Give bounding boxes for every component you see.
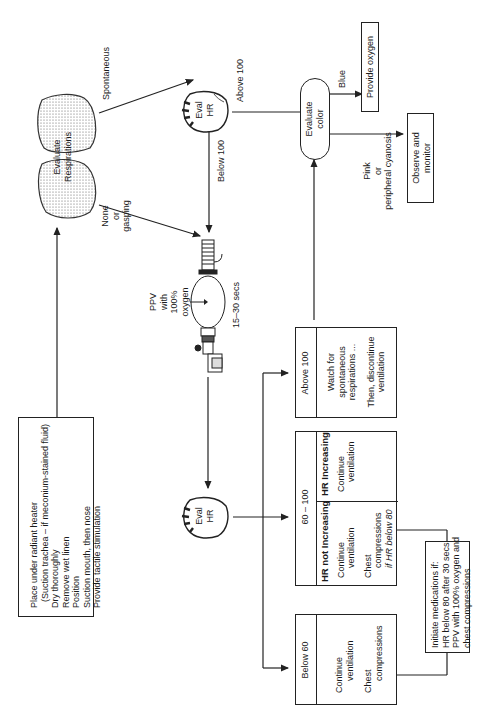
outcome-above-100-box: Above 100 Watch for spontaneous respirat… <box>295 327 397 418</box>
percent-text: 100% <box>169 282 180 322</box>
arrow-spontaneous <box>99 80 193 113</box>
lungs-icon: Evaluate Respirations <box>34 92 100 222</box>
above-100-top-label: Above 100 <box>235 59 246 102</box>
initial-step-4: Remove wet linen <box>61 424 72 608</box>
outcome-above-100-header: Above 100 <box>300 338 311 408</box>
peripheral-cyanosis-text: peripheral cyanosis <box>383 126 394 216</box>
pink-text: Pink <box>362 126 373 216</box>
hr-not-increasing-line-6: if HR below 80 <box>384 501 395 582</box>
above-100-line-5: Then, discontinue <box>366 336 377 408</box>
blue-label: Blue <box>337 70 348 88</box>
evaluate-respirations-label-2: Respirations <box>63 122 74 192</box>
medications-line-2: HR below 80 after 30 secs <box>441 537 452 648</box>
eval-hr-top-text-1: Eval <box>194 92 205 128</box>
gasping-text: gasping <box>121 196 132 236</box>
pink-label: Pink or peripheral cyanosis <box>362 126 394 216</box>
outcome-60-100-box: 60 – 100 HR Increasing Continue ventilat… <box>295 431 397 586</box>
outcome-below-60-header: Below 60 <box>300 625 311 695</box>
medications-line-1: Initiate medications if: <box>430 537 441 648</box>
with-text: with <box>159 282 170 322</box>
or-text-2: or <box>373 126 384 216</box>
outcome-60-100-header: 60 – 100 <box>300 472 311 542</box>
initial-step-3: Dry thoroughly <box>50 424 61 608</box>
initial-step-1: Place under radiant heater <box>29 424 40 608</box>
hr-not-increasing-title: HR not Increasing <box>320 501 331 582</box>
medications-box: Initiate medications if: HR below 80 aft… <box>425 541 470 653</box>
provide-oxygen-box: Provide oxygen <box>361 22 379 112</box>
initial-steps-box: Place under radiant heater (Suction trac… <box>18 417 94 617</box>
above-100-line-3: respirations ... <box>347 336 358 408</box>
hr-not-increasing-line-1: Continue <box>336 501 347 582</box>
provide-oxygen-text: Provide oxygen <box>365 29 376 105</box>
heart-icon-top: Eval HR <box>180 88 230 133</box>
eval-hr-bottom-text-1: Eval <box>194 498 205 534</box>
above-100-line-2: spontaneous <box>337 336 348 408</box>
initial-step-7: Provide tactile stimulation <box>92 424 103 608</box>
above-100-line-6: ventilation <box>376 336 387 408</box>
below-60-line-2: ventilation <box>345 625 356 693</box>
below-100-top-label: Below 100 <box>216 140 227 182</box>
spontaneous-label: Spontaneous <box>101 47 112 100</box>
initial-step-6: Suction mouth, then nose <box>82 424 93 608</box>
hr-not-increasing-line-4: Chest <box>363 501 374 582</box>
ppv-duration-label: 15–30 secs <box>231 282 242 328</box>
below-60-line-5: compressions <box>374 625 385 693</box>
medications-line-4: chest compressions <box>462 537 473 648</box>
initial-step-5: Position <box>71 424 82 608</box>
monitor-text: monitor <box>422 120 433 196</box>
none-text: None <box>100 196 111 236</box>
heart-icon-bottom: Eval HR <box>180 494 230 539</box>
or-text: or <box>111 196 122 236</box>
hr-increasing-line-1: Continue <box>336 432 347 496</box>
oxygen-text: oxygen <box>180 282 191 322</box>
observe-monitor-box: Observe and monitor <box>407 113 434 203</box>
eval-hr-bottom-text-2: HR <box>205 498 216 534</box>
evaluate-respirations-label-1: Evaluate <box>52 122 63 192</box>
ppv-text: PPV <box>148 282 159 322</box>
evaluate-color-text-1: Evaluate <box>304 97 315 141</box>
hr-increasing-title: HR Increasing <box>320 432 331 496</box>
above-100-line-1: Watch for <box>326 336 337 408</box>
below-60-line-4: Chest <box>363 625 374 693</box>
hr-increasing-line-2: ventilation <box>346 432 357 496</box>
medications-line-3: PPV with 100% oxygen and <box>451 537 462 648</box>
none-gasping-label: None or gasping <box>100 196 132 236</box>
eval-hr-top-text-2: HR <box>205 92 216 128</box>
evaluate-color-text-2: color <box>315 97 326 141</box>
hr-not-increasing-line-5: compressions <box>373 501 384 582</box>
hr-not-increasing-line-2: ventilation <box>346 501 357 582</box>
initial-step-2: (Suction trachea – if meconium-stained f… <box>40 424 51 608</box>
outcome-below-60-box: Below 60 Continue ventilation Chest comp… <box>295 614 397 705</box>
below-60-line-1: Continue <box>334 625 345 693</box>
ppv-label: PPV with 100% oxygen <box>148 282 190 322</box>
observe-text: Observe and <box>411 120 422 196</box>
evaluate-color-node: Evaluate color <box>300 78 330 160</box>
